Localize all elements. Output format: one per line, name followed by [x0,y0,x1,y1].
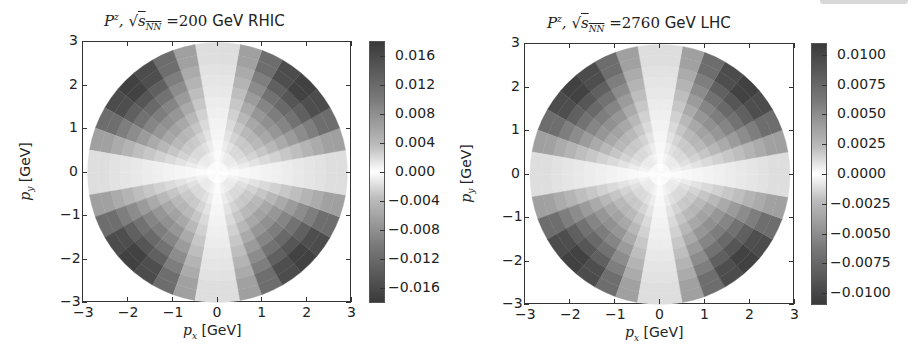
x-tick [794,43,795,48]
polarization-heatmap [525,44,795,305]
title-var: P [547,14,557,32]
colorbar-tick-label: 0.016 [395,47,435,63]
y-tick-label: −1 [60,206,81,222]
colorbar-tick [822,234,827,235]
x-tick-label: −2 [560,306,581,322]
y-tick [524,304,529,305]
colorbar-tick-label: −0.0100 [830,284,891,300]
y-tick-label: −2 [60,250,81,266]
y-axis-label: py [GeV] [458,133,477,213]
title-unit: GeV LHC [665,14,731,32]
y-tick [346,302,351,303]
colorbar-tick [380,259,385,260]
x-tick [217,41,218,46]
x-tick [659,43,660,48]
y-tick [789,261,794,262]
x-tick [351,41,352,46]
colorbar-tick-label: −0.012 [388,250,440,266]
y-tick-label: 0 [511,165,520,181]
y-tick [346,172,351,173]
y-tick [346,128,351,129]
y-tick [524,87,529,88]
y-tick [346,85,351,86]
y-tick-label: 0 [69,163,78,179]
panel-lhc: Pz, √sNN =2760 GeV LHC py [GeV] px [GeV]… [462,0,924,362]
x-tick-label: −2 [118,304,139,320]
plot-axes [524,43,794,304]
y-tick [789,87,794,88]
y-tick [789,130,794,131]
title-sqrt-arg: sNN [581,14,604,32]
x-tick [614,299,615,304]
x-tick [261,297,262,302]
y-tick [82,172,87,173]
x-tick [261,41,262,46]
y-tick [346,259,351,260]
title-value: 2760 [622,14,660,32]
colorbar-tick-label: −0.0025 [830,195,891,211]
x-tick [306,41,307,46]
colorbar-tick [822,85,827,86]
x-tick-label: 2 [302,304,311,320]
x-tick [172,297,173,302]
title-sqrt-arg: sNN [138,12,161,30]
x-tick [217,297,218,302]
x-tick-label: 3 [347,304,356,320]
colorbar-tick [822,293,827,294]
x-tick [749,43,750,48]
y-tick-label: −1 [502,208,523,224]
x-tick-label: 2 [745,306,754,322]
colorbar-tick [380,201,385,202]
y-tick-label: −2 [502,252,523,268]
y-tick-label: 3 [69,32,78,48]
panel-rhic: Pz, √sNN =200 GeV RHIC py [GeV] px [GeV]… [0,0,462,362]
x-axis-label: px [GeV] [625,324,683,343]
plot-axes [82,41,351,302]
y-tick-label: −3 [60,293,81,309]
y-tick-label: 1 [511,121,520,137]
colorbar-tick-label: 0.000 [395,163,435,179]
title-eq: = [166,12,179,30]
y-tick [346,41,351,42]
x-tick [794,299,795,304]
colorbar-tick-label: 0.0100 [837,46,886,62]
colorbar-tick [380,85,385,86]
y-tick-label: 2 [69,76,78,92]
y-tick [524,43,529,44]
x-tick-label: −1 [605,306,626,322]
title-value: 200 [179,12,208,30]
x-tick [704,299,705,304]
colorbar-tick [822,114,827,115]
title-unit: GeV RHIC [212,12,284,30]
x-tick-label: 0 [213,304,222,320]
title-eq: = [609,14,622,32]
x-tick [749,299,750,304]
y-tick [82,85,87,86]
plot-title: Pz, √sNN =200 GeV RHIC [104,12,285,32]
x-tick [127,297,128,302]
y-tick-label: 2 [511,78,520,94]
colorbar-tick-label: 0.008 [395,105,435,121]
colorbar-tick [822,144,827,145]
y-tick [524,130,529,131]
colorbar-tick [380,288,385,289]
colorbar-tick-label: −0.008 [388,221,440,237]
colorbar-tick [822,174,827,175]
x-tick [704,43,705,48]
title-var: P [104,12,114,30]
colorbar-tick [380,230,385,231]
x-tick [569,43,570,48]
x-tick-label: 0 [655,306,664,322]
x-axis-label: px [GeV] [183,322,241,341]
y-tick [346,215,351,216]
x-tick [351,297,352,302]
y-tick [82,302,87,303]
y-tick [524,217,529,218]
colorbar-tick [822,55,827,56]
colorbar-tick-label: 0.004 [395,134,435,150]
y-tick-label: 1 [69,119,78,135]
colorbar-tick [380,172,385,173]
colorbar-tick-label: 0.012 [395,76,435,92]
colorbar-tick-label: −0.0075 [830,254,891,270]
y-tick [789,304,794,305]
